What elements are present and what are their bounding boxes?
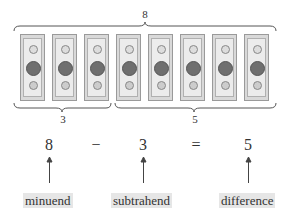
arrow-up-icon	[141, 157, 146, 162]
subtrahend-term-label: subtrahend	[111, 193, 172, 208]
minuend-term-label: minuend	[23, 193, 73, 208]
arrow-up-icon	[47, 157, 52, 162]
difference-term-label: difference	[219, 193, 275, 208]
arrows	[0, 0, 296, 213]
arrow-up-icon	[246, 157, 251, 162]
